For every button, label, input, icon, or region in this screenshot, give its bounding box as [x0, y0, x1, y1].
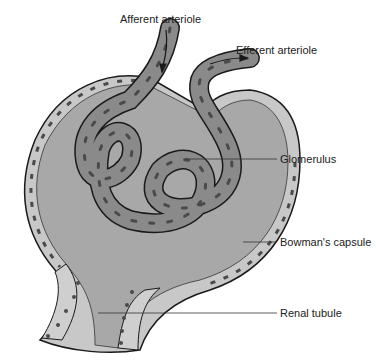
diagram-figure: [0, 0, 382, 360]
label-bowmans-capsule: Bowman's capsule: [280, 236, 371, 248]
renal-corpuscle-diagram: Afferent arteriole Efferent arteriole Gl…: [0, 0, 382, 360]
label-glomerulus: Glomerulus: [280, 153, 336, 165]
label-renal-tubule: Renal tubule: [280, 307, 342, 319]
label-afferent-arteriole: Afferent arteriole: [120, 13, 201, 25]
label-efferent-arteriole: Efferent arteriole: [236, 44, 317, 56]
